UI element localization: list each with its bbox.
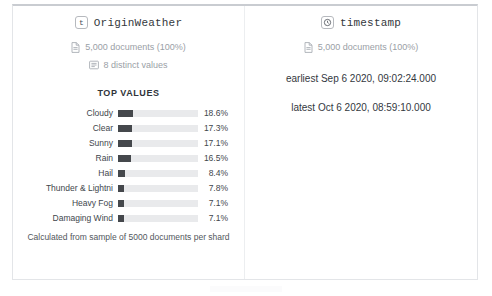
bar-row: Heavy Fog 7.1% xyxy=(25,197,228,210)
latest-value: Oct 6 2020, 08:59:10.000 xyxy=(318,102,431,113)
field-details-screen: t OriginWeather 5,000 documents (100%) xyxy=(0,0,492,296)
bar-fill xyxy=(118,215,124,222)
bar-track xyxy=(118,215,198,222)
bar-fill xyxy=(118,185,124,192)
bar-row: Sunny 17.1% xyxy=(25,137,228,150)
bar-label: Sunny xyxy=(25,138,118,149)
bar-track xyxy=(118,110,198,117)
bar-percent: 7.8% xyxy=(198,183,228,194)
document-count-text: 5,000 documents (100%) xyxy=(318,41,419,53)
field-panel-timestamp: timestamp 5,000 documents (100%) earlies… xyxy=(245,6,477,279)
bar-label: Cloudy xyxy=(25,108,118,119)
bar-track xyxy=(118,185,198,192)
bar-percent: 17.3% xyxy=(198,123,228,134)
bar-label: Rain xyxy=(25,153,118,164)
bar-track xyxy=(118,200,198,207)
bar-percent: 17.1% xyxy=(198,138,228,149)
latest-label: latest xyxy=(291,102,315,113)
top-values-heading: TOP VALUES xyxy=(23,88,234,98)
bar-percent: 7.1% xyxy=(198,213,228,224)
bar-row: Damaging Wind 7.1% xyxy=(25,212,228,225)
list-icon xyxy=(89,60,98,71)
field-panel-origin-weather: t OriginWeather 5,000 documents (100%) xyxy=(13,6,245,279)
bar-label: Thunder & Lightni xyxy=(25,183,118,194)
field-title-row: timestamp xyxy=(255,16,467,29)
bar-label: Damaging Wind xyxy=(25,213,118,224)
top-values-bar-chart: Cloudy 18.6% Clear 17.3% Sunny xyxy=(23,107,234,225)
earliest-value: Sep 6 2020, 09:02:24.000 xyxy=(321,73,436,84)
earliest-label: earliest xyxy=(286,73,318,84)
bar-fill xyxy=(118,155,131,162)
document-count-row: 5,000 documents (100%) xyxy=(23,41,234,53)
bar-row: Clear 17.3% xyxy=(25,122,228,135)
capture-artifact xyxy=(210,286,282,292)
bar-row: Rain 16.5% xyxy=(25,152,228,165)
bar-fill xyxy=(118,125,132,132)
sample-note: Calculated from sample of 5000 documents… xyxy=(23,232,234,242)
bar-percent: 8.4% xyxy=(198,168,228,179)
distinct-values-row: 8 distinct values xyxy=(23,59,234,71)
document-count-row: 5,000 documents (100%) xyxy=(255,41,467,53)
bar-fill xyxy=(118,110,133,117)
bar-label: Heavy Fog xyxy=(25,198,118,209)
latest-date-row: latest Oct 6 2020, 08:59:10.000 xyxy=(255,101,467,114)
earliest-date-row: earliest Sep 6 2020, 09:02:24.000 xyxy=(255,72,467,85)
bar-row: Cloudy 18.6% xyxy=(25,107,228,120)
document-icon xyxy=(71,42,80,53)
bar-track xyxy=(118,125,198,132)
field-title-row: t OriginWeather xyxy=(23,16,234,29)
bar-percent: 16.5% xyxy=(198,153,228,164)
field-panels-container: t OriginWeather 5,000 documents (100%) xyxy=(12,4,478,280)
bar-row: Thunder & Lightni 7.8% xyxy=(25,182,228,195)
bar-row: Hail 8.4% xyxy=(25,167,228,180)
field-name-label: timestamp xyxy=(340,17,401,29)
bar-percent: 18.6% xyxy=(198,108,228,119)
text-field-icon: t xyxy=(75,16,88,29)
date-field-icon xyxy=(321,16,334,29)
bar-label: Clear xyxy=(25,123,118,134)
bar-fill xyxy=(118,170,125,177)
field-name-label: OriginWeather xyxy=(94,17,182,29)
bar-track xyxy=(118,140,198,147)
bar-fill xyxy=(118,140,132,147)
bar-fill xyxy=(118,200,124,207)
bar-percent: 7.1% xyxy=(198,198,228,209)
distinct-values-text: 8 distinct values xyxy=(103,59,167,71)
document-icon xyxy=(304,42,313,53)
bar-track xyxy=(118,170,198,177)
bar-track xyxy=(118,155,198,162)
bar-label: Hail xyxy=(25,168,118,179)
document-count-text: 5,000 documents (100%) xyxy=(85,41,186,53)
